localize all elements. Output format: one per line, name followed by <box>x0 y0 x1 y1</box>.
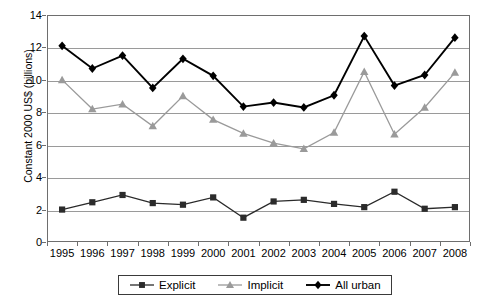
x-tick-mark <box>289 242 290 246</box>
x-tick-mark <box>77 242 78 246</box>
data-point <box>150 200 156 206</box>
legend-label: Implicit <box>247 279 283 291</box>
data-point <box>270 98 277 107</box>
legend-marker-diamond-icon <box>305 279 331 291</box>
y-tick-mark <box>42 112 46 113</box>
series-explicit <box>59 189 458 221</box>
legend-marker-triangle-icon <box>217 279 243 291</box>
x-tick-mark <box>228 242 229 246</box>
y-tick-mark <box>42 15 46 16</box>
legend-entry-all-urban[interactable]: All urban <box>305 279 380 291</box>
data-point <box>239 129 247 136</box>
x-tick-mark <box>198 242 199 246</box>
x-axis-ticks: 1995199619971998199920002001200220032004… <box>47 242 470 272</box>
y-tick-mark <box>42 177 46 178</box>
legend-label: Explicit <box>159 279 195 291</box>
series-layer <box>47 15 470 242</box>
x-tick-mark <box>107 242 108 246</box>
x-tick-mark <box>138 242 139 246</box>
y-tick-label: 4 <box>2 172 42 183</box>
data-point <box>330 128 338 135</box>
data-point <box>361 204 367 210</box>
data-point <box>452 204 458 210</box>
data-point <box>89 199 95 205</box>
data-point <box>118 100 126 107</box>
line-chart: Constant 2000 US$ (billions) 02468101214… <box>0 0 488 304</box>
data-point <box>180 202 186 208</box>
y-axis-ticks: 02468101214 <box>0 15 42 242</box>
data-point <box>422 206 428 212</box>
legend-marker-square-icon <box>129 279 155 291</box>
data-point <box>240 215 246 221</box>
data-point <box>360 68 368 75</box>
y-tick-label: 10 <box>2 75 42 86</box>
x-tick-mark <box>168 242 169 246</box>
x-tick-mark <box>410 242 411 246</box>
chart-legend: ExplicitImplicitAll urban <box>118 275 392 295</box>
data-point <box>59 206 65 212</box>
x-tick-mark <box>470 242 471 246</box>
x-tick-mark <box>47 242 48 246</box>
y-tick-mark <box>42 47 46 48</box>
legend-entry-implicit[interactable]: Implicit <box>217 279 283 291</box>
data-point <box>391 189 397 195</box>
y-tick-label: 6 <box>2 140 42 151</box>
data-point <box>119 192 125 198</box>
y-tick-mark <box>42 210 46 211</box>
y-tick-mark <box>42 242 46 243</box>
data-point <box>271 198 277 204</box>
series-all-urban <box>58 32 458 112</box>
y-tick-label: 14 <box>2 10 42 21</box>
x-tick-mark <box>440 242 441 246</box>
y-tick-label: 12 <box>2 42 42 53</box>
data-point <box>331 201 337 207</box>
series-implicit <box>58 68 459 152</box>
y-tick-label: 8 <box>2 107 42 118</box>
y-tick-label: 2 <box>2 205 42 216</box>
data-point <box>301 197 307 203</box>
x-tick-mark <box>259 242 260 246</box>
data-point <box>58 76 66 83</box>
x-tick-mark <box>319 242 320 246</box>
y-tick-label: 0 <box>2 237 42 248</box>
series-line <box>62 36 455 107</box>
legend-entry-explicit[interactable]: Explicit <box>129 279 195 291</box>
x-tick-mark <box>349 242 350 246</box>
y-tick-mark <box>42 80 46 81</box>
y-tick-mark <box>42 145 46 146</box>
x-tick-mark <box>379 242 380 246</box>
data-point <box>210 194 216 200</box>
data-point <box>179 92 187 99</box>
x-tick-label: 2008 <box>435 247 475 259</box>
data-point <box>300 103 307 112</box>
data-point <box>451 68 459 75</box>
legend-label: All urban <box>335 279 380 291</box>
